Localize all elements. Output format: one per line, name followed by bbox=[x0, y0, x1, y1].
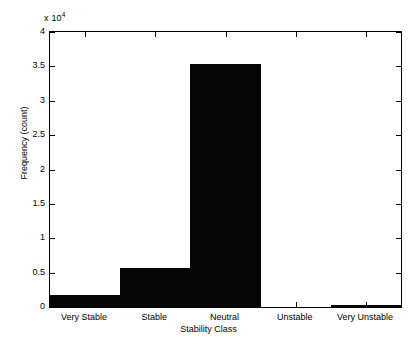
bar-very-stable[interactable] bbox=[50, 295, 120, 307]
y-axis-tick-label: 0.5 bbox=[32, 267, 45, 277]
y-axis-tick-mark bbox=[396, 32, 401, 33]
x-axis-tick-label: Unstable bbox=[277, 312, 313, 322]
y-axis-tick-mark bbox=[396, 273, 401, 274]
y-axis-tick-mark bbox=[50, 101, 55, 102]
x-axis-tick-mark bbox=[85, 32, 86, 37]
bar-neutral[interactable] bbox=[190, 64, 260, 307]
x-axis-tick-mark bbox=[226, 32, 227, 37]
y-axis-tick-mark bbox=[50, 273, 55, 274]
y-axis-tick-mark bbox=[396, 307, 401, 308]
x-axis-tick-label: Very Stable bbox=[61, 312, 107, 322]
plot-surface bbox=[50, 32, 401, 307]
y-axis-tick-label: 3.5 bbox=[32, 60, 45, 70]
x-axis-tick-label: Stable bbox=[142, 312, 168, 322]
y-axis-tick-mark bbox=[396, 204, 401, 205]
y-axis-exponent-power: 4 bbox=[62, 11, 66, 18]
y-axis-tick-mark bbox=[50, 66, 55, 67]
x-axis-tick-label: Very Unstable bbox=[337, 312, 393, 322]
y-axis-tick-label: 2.5 bbox=[32, 129, 45, 139]
x-axis-tick-mark bbox=[155, 32, 156, 37]
y-axis-tick-mark bbox=[50, 204, 55, 205]
y-axis-tick-label: 4 bbox=[40, 26, 45, 36]
y-axis-tick-label: 3 bbox=[40, 95, 45, 105]
y-axis-title: Frequency (count) bbox=[19, 63, 29, 223]
x-axis-tick-mark bbox=[296, 32, 297, 37]
y-axis-exponent-mantissa: x 10 bbox=[44, 13, 62, 23]
y-axis-tick-mark bbox=[396, 66, 401, 67]
bar-very-unstable[interactable] bbox=[331, 305, 401, 307]
y-axis-tick-label: 0 bbox=[40, 301, 45, 311]
y-axis-tick-mark bbox=[50, 170, 55, 171]
y-axis-tick-mark bbox=[50, 32, 55, 33]
plot-area bbox=[49, 31, 402, 308]
bar-stable[interactable] bbox=[120, 268, 190, 307]
y-axis-tick-mark bbox=[396, 238, 401, 239]
y-axis-tick-label: 1 bbox=[40, 232, 45, 242]
x-axis-tick-mark bbox=[296, 302, 297, 307]
y-axis-exponent-label: x 104 bbox=[44, 11, 66, 23]
y-axis-tick-mark bbox=[50, 238, 55, 239]
y-axis-tick-mark bbox=[50, 307, 55, 308]
y-axis-tick-mark bbox=[50, 135, 55, 136]
y-axis-tick-mark bbox=[396, 101, 401, 102]
figure-canvas: x 104 00.511.522.533.54Very StableStable… bbox=[0, 0, 417, 350]
y-axis-tick-label: 1.5 bbox=[32, 198, 45, 208]
x-axis-tick-label: Neutral bbox=[210, 312, 239, 322]
x-axis-tick-mark bbox=[366, 32, 367, 37]
x-axis-title: Stability Class bbox=[0, 324, 417, 334]
y-axis-tick-label: 2 bbox=[40, 164, 45, 174]
y-axis-tick-mark bbox=[396, 135, 401, 136]
y-axis-tick-mark bbox=[396, 170, 401, 171]
